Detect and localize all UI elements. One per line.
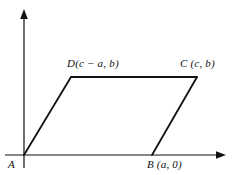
edge-a-d (24, 77, 71, 155)
x-axis-arrowhead-icon (216, 151, 226, 159)
figure-canvas (0, 0, 233, 175)
edge-c-b (152, 77, 197, 155)
vertex-label-d: D(c − a, b) (67, 58, 119, 69)
vertex-label-c: C (c, b) (180, 58, 215, 69)
y-axis-arrowhead-icon (20, 9, 28, 19)
vertex-label-b: B (a, 0) (147, 159, 182, 170)
geometry-figure: D(c − a, b) C (c, b) A B (a, 0) (0, 0, 233, 175)
vertex-label-a: A (8, 159, 15, 170)
